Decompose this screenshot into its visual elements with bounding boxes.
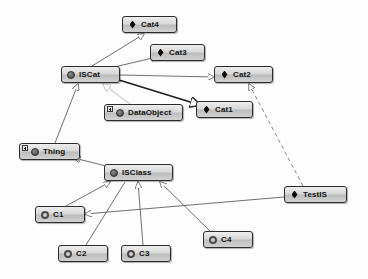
edge-iscat-cat4 [92, 34, 144, 66]
node-dataobject[interactable]: DataObject [104, 104, 183, 121]
diagram-canvas[interactable]: Cat4Cat3ISCatCat2DataObjectCat1ThingISCl… [0, 0, 368, 279]
node-label: C1 [53, 211, 63, 219]
node-c1[interactable]: C1 [35, 206, 85, 223]
node-label: C4 [221, 236, 231, 244]
black-diamond-icon [128, 20, 137, 29]
node-c4[interactable]: C4 [203, 231, 253, 248]
node-cat3[interactable]: Cat3 [150, 44, 205, 61]
node-label: Cat2 [233, 71, 251, 79]
node-label: C2 [76, 250, 86, 258]
node-c3[interactable]: C3 [121, 245, 171, 262]
filled-sphere-icon [116, 109, 124, 117]
edge-iscat-cat1 [119, 80, 200, 105]
edge-layer [0, 0, 368, 279]
edge-thing-iscat [55, 84, 78, 143]
filled-sphere-icon [110, 169, 118, 177]
edge-c1-isclass [66, 182, 110, 206]
hollow-ring-icon [64, 250, 72, 258]
filled-sphere-icon [67, 71, 75, 79]
node-isclass[interactable]: ISClass [104, 164, 173, 181]
edge-testis-c1 [85, 197, 284, 214]
black-diamond-icon [220, 70, 229, 79]
node-cat1[interactable]: Cat1 [196, 101, 253, 118]
node-label: Cat4 [141, 21, 159, 29]
node-label: ISCat [79, 71, 100, 79]
filled-sphere-icon [31, 148, 39, 156]
black-diamond-icon [156, 48, 165, 57]
node-c2[interactable]: C2 [58, 245, 108, 262]
node-label: Cat3 [169, 49, 187, 57]
node-label: DataObject [128, 109, 171, 117]
hollow-ring-icon [41, 211, 49, 219]
node-label: Cat1 [215, 106, 233, 114]
hollow-ring-icon [209, 236, 217, 244]
node-label: C3 [139, 250, 149, 258]
edge-c3-isclass [138, 182, 143, 245]
edge-testis-cat2 [249, 84, 303, 186]
node-label: ISClass [122, 169, 152, 177]
node-cat2[interactable]: Cat2 [214, 66, 273, 83]
expand-plus-badge-icon[interactable] [107, 106, 113, 112]
node-thing[interactable]: Thing [19, 143, 80, 160]
edge-dataobject-iscat [103, 84, 130, 104]
black-diamond-icon [290, 190, 299, 199]
node-cat4[interactable]: Cat4 [122, 16, 177, 33]
black-diamond-icon [202, 105, 211, 114]
edge-iscat-cat2 [120, 75, 214, 77]
expand-plus-badge-icon[interactable] [22, 145, 28, 151]
node-label: TestIS [303, 191, 327, 199]
node-iscat[interactable]: ISCat [61, 66, 120, 83]
hollow-ring-icon [127, 250, 135, 258]
node-testis[interactable]: TestIS [284, 186, 347, 203]
node-label: Thing [43, 148, 65, 156]
